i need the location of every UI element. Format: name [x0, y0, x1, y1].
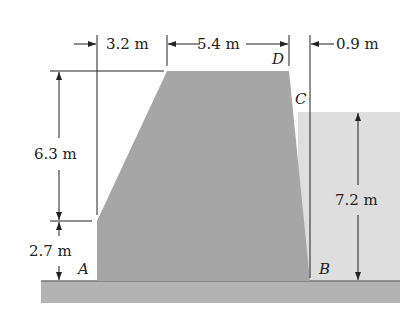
- dam-body: [97, 71, 310, 281]
- dim-lower-height: 2.7 m: [29, 244, 72, 259]
- dim-water-depth: 7.2 m: [335, 193, 378, 208]
- dim-crest-width: 5.4 m: [197, 37, 240, 52]
- dim-right-offset: 0.9 m: [336, 37, 379, 52]
- ground: [41, 281, 400, 303]
- dim-top-left-offset: 3.2 m: [106, 37, 149, 52]
- point-c-label: C: [295, 92, 306, 107]
- dim-upper-height: 6.3 m: [34, 147, 77, 162]
- point-a-label: A: [78, 262, 89, 277]
- point-b-label: B: [319, 262, 330, 277]
- point-d-label: D: [272, 52, 284, 67]
